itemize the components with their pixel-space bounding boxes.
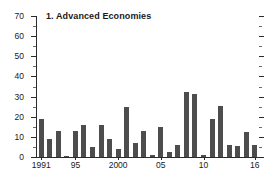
x-tick-label: 2000 xyxy=(109,160,128,170)
y-tick-label: 70 xyxy=(15,12,24,21)
bar xyxy=(116,149,121,157)
bar xyxy=(56,131,61,157)
bars-layer xyxy=(37,16,259,157)
bar xyxy=(124,107,129,157)
y-tick-minor-right xyxy=(259,46,262,47)
x-tick-label: 95 xyxy=(71,160,80,170)
bar xyxy=(133,143,138,157)
bar xyxy=(235,146,240,157)
x-tick-label: 1991 xyxy=(32,160,51,170)
bar xyxy=(150,155,155,157)
y-tick-major-right xyxy=(259,97,264,98)
bar xyxy=(167,152,172,157)
y-tick-label: 0 xyxy=(19,153,24,162)
y-tick-minor-right xyxy=(259,127,262,128)
y-tick-minor-right xyxy=(259,26,262,27)
y-tick-minor-right xyxy=(259,147,262,148)
y-tick-major-right xyxy=(259,36,264,37)
y-tick-major-right xyxy=(259,117,264,118)
bar xyxy=(73,131,78,157)
bar xyxy=(99,125,104,157)
y-tick-minor-right xyxy=(259,66,262,67)
y-tick-minor-right xyxy=(259,87,262,88)
bar xyxy=(141,131,146,157)
bar xyxy=(158,127,163,157)
y-tick-major-right xyxy=(259,56,264,57)
y-tick-label: 40 xyxy=(15,72,24,81)
bar xyxy=(107,139,112,157)
x-tick-label: 16 xyxy=(250,160,259,170)
bar xyxy=(64,156,69,157)
bar xyxy=(184,92,189,157)
bar xyxy=(90,147,95,157)
y-tick-label: 30 xyxy=(15,93,24,102)
y-tick-major-right xyxy=(259,16,264,17)
y-axis-labels: 706050403020100 xyxy=(0,0,24,181)
y-tick-label: 50 xyxy=(15,52,24,61)
y-tick-label: 20 xyxy=(15,113,24,122)
y-tick-minor-right xyxy=(259,107,262,108)
bar xyxy=(39,119,44,157)
y-tick-label: 10 xyxy=(15,133,24,142)
bar xyxy=(175,145,180,157)
x-tick-label: 05 xyxy=(156,160,165,170)
y-tick-major-right xyxy=(259,76,264,77)
y-tick-major-right xyxy=(259,137,264,138)
chart-container: 1. Advanced Economies 706050403020100 19… xyxy=(0,0,275,181)
y-tick-major-right xyxy=(259,157,264,158)
x-tick-label: 10 xyxy=(199,160,208,170)
bar xyxy=(210,119,215,157)
bar xyxy=(192,94,197,157)
bar xyxy=(227,145,232,157)
bar xyxy=(252,145,257,157)
bar xyxy=(81,125,86,157)
bar xyxy=(218,106,223,157)
x-axis-line xyxy=(36,157,259,158)
bar xyxy=(47,139,52,157)
bar xyxy=(244,132,249,157)
y-tick-label: 60 xyxy=(15,32,24,41)
